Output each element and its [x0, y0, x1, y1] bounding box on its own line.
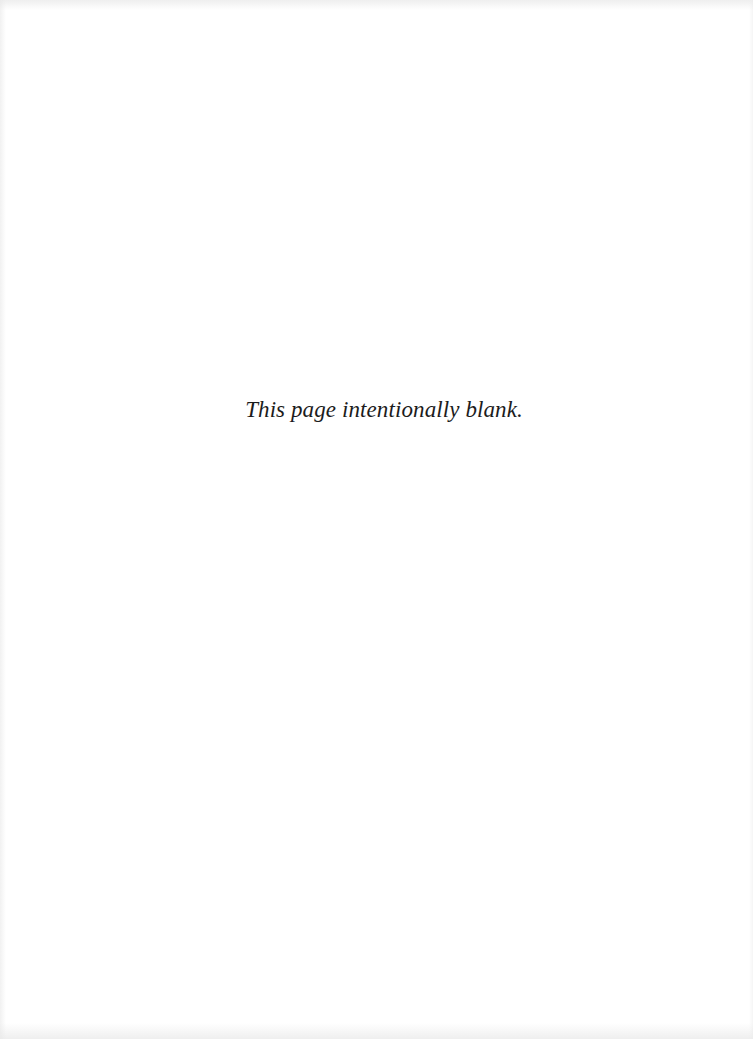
document-page: This page intentionally blank.: [0, 0, 753, 1039]
scan-edge-shadow-bottom: [0, 1023, 753, 1039]
scan-edge-shadow-top: [0, 0, 753, 10]
scan-edge-shadow-left: [0, 0, 6, 1039]
blank-page-notice: This page intentionally blank.: [0, 396, 753, 424]
scan-edge-shadow-right: [749, 0, 753, 1039]
